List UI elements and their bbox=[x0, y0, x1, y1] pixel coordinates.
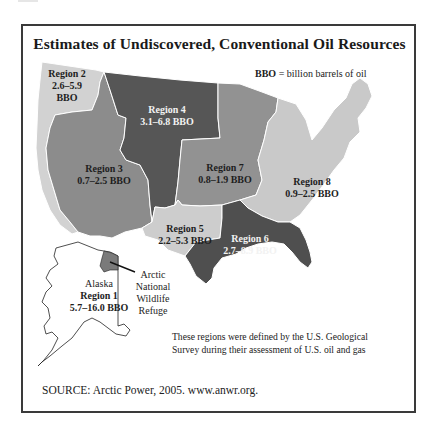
region-8-estimate: 0.9–2.5 BBO bbox=[285, 188, 339, 199]
region-2-estimate-line2: BBO bbox=[56, 92, 77, 103]
region-1-name: Region 1 bbox=[80, 290, 118, 301]
anwr-label-line3: Wildlife bbox=[137, 293, 170, 304]
us-oil-regions-map: Region 2 2.6–5.9 BBO Region 4 3.1–6.8 BB… bbox=[0, 0, 431, 433]
region-1-estimate: 5.7–16.0 BBO bbox=[70, 302, 129, 313]
region-3-estimate: 0.7–2.5 BBO bbox=[77, 175, 131, 186]
region-6-name: Region 6 bbox=[231, 233, 269, 244]
region-5-name: Region 5 bbox=[166, 223, 204, 234]
region-5-estimate: 2.2–5.3 BBO bbox=[158, 235, 212, 246]
region-7-estimate: 0.8–1.9 BBO bbox=[198, 174, 252, 185]
anwr-label-line2: National bbox=[136, 281, 171, 292]
region-3-name: Region 3 bbox=[85, 163, 123, 174]
region-2-estimate-line1: 2.6–5.9 bbox=[52, 80, 82, 91]
region-8-name: Region 8 bbox=[293, 176, 331, 187]
region-6-estimate: 2.7–8.9 BBO bbox=[223, 245, 277, 256]
source-citation: SOURCE: Arctic Power, 2005. www.anwr.org… bbox=[42, 384, 258, 396]
usgs-note: These regions were defined by the U.S. G… bbox=[172, 330, 382, 356]
anwr-label-line1: Arctic bbox=[141, 269, 167, 280]
region-7-name: Region 7 bbox=[206, 162, 244, 173]
alaska-label: Alaska bbox=[85, 278, 113, 289]
region-4-estimate: 3.1–6.8 BBO bbox=[140, 116, 194, 127]
region-4-name: Region 4 bbox=[148, 104, 186, 115]
anwr-label-line4: Refuge bbox=[139, 305, 168, 316]
region-2-name: Region 2 bbox=[48, 68, 86, 79]
